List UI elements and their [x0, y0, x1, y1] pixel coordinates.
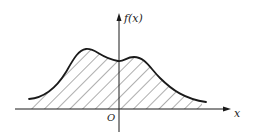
- x-axis-arrow-icon: [223, 107, 231, 112]
- hatched-area: [31, 49, 202, 109]
- y-axis-label: f(x): [123, 12, 143, 25]
- y-axis-arrow-icon: [117, 13, 122, 21]
- x-axis-label: x: [234, 107, 241, 120]
- origin-label: O: [107, 112, 115, 123]
- function-plot: f(x) x O: [0, 0, 256, 138]
